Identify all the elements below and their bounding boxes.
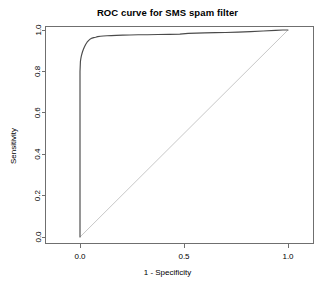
y-tick-label: 0.6 [34, 107, 43, 119]
plot-frame [46, 27, 314, 244]
y-tick-label: 1.0 [34, 24, 43, 36]
x-tick-label: 0.0 [74, 252, 86, 261]
roc-plot-figure: ROC curve for SMS spam filter 0.00.51.0 … [0, 0, 335, 292]
y-tick-label: 0.8 [34, 65, 43, 77]
x-axis: 0.00.51.0 [74, 244, 294, 261]
plot-box [46, 27, 314, 244]
y-tick-label: 0.0 [34, 231, 43, 243]
y-tick-label: 0.4 [34, 148, 43, 160]
y-axis: 0.00.20.40.60.81.0 [34, 24, 46, 243]
reference-diagonal-line [80, 30, 288, 237]
x-axis-label: 1 - Specificity [0, 268, 335, 277]
y-tick-label: 0.2 [34, 189, 43, 201]
y-axis-label: Sensitivity [6, 0, 22, 292]
data-series-group [80, 30, 288, 237]
x-tick-label: 1.0 [282, 252, 294, 261]
plot-canvas: 0.00.51.0 0.00.20.40.60.81.0 [0, 0, 335, 292]
x-tick-label: 0.5 [178, 252, 190, 261]
